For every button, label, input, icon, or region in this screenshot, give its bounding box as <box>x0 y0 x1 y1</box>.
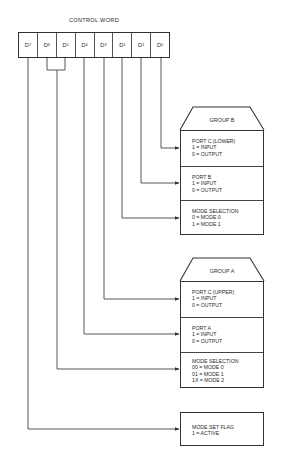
wire-d4 <box>84 58 179 334</box>
group-b-box: PORT C (LOWER) 1 = INPUT 0 = OUTPUT PORT… <box>180 130 264 235</box>
port-a-section: PORT A 1 = INPUT 0 = OUTPUT <box>181 318 263 353</box>
group-b-label: GROUP B <box>180 117 264 123</box>
wire-d0 <box>161 58 179 148</box>
section-line: 0 = OUTPUT <box>192 151 263 157</box>
group-a-label: GROUP A <box>180 268 264 274</box>
wire-d3 <box>104 58 179 299</box>
section-line: 0 = OUTPUT <box>192 338 263 344</box>
group-a-box: PORT C (UPPER) 1 = INPUT 0 = OUTPUT PORT… <box>180 281 264 388</box>
mode-set-flag-box: MODE SET FLAG 1 = ACTIVE <box>180 412 264 446</box>
wire-d1 <box>141 58 179 183</box>
section-line: 0 = OUTPUT <box>192 187 263 193</box>
port-c-lower-section: PORT C (LOWER) 1 = INPUT 0 = OUTPUT <box>181 131 263 167</box>
section-line: 1 = MODE 1 <box>192 221 263 227</box>
group-a-mode-section: MODE SELECTION 00 = MODE 0 01 = MODE 1 1… <box>181 353 263 387</box>
wire-d2 <box>122 58 179 218</box>
section-line: 1 = ACTIVE <box>192 430 263 436</box>
mode-set-flag-section: MODE SET FLAG 1 = ACTIVE <box>181 413 263 445</box>
section-line: 0 = OUTPUT <box>192 302 263 308</box>
wire-d6-d5-bracket <box>47 58 65 70</box>
port-b-section: PORT B 1 = INPUT 0 = OUTPUT <box>181 167 263 201</box>
group-b-mode-section: MODE SELECTION 0 = MODE 0 1 = MODE 1 <box>181 201 263 234</box>
wire-d7 <box>28 58 179 429</box>
port-c-upper-section: PORT C (UPPER) 1 = INPUT 0 = OUTPUT <box>181 282 263 318</box>
section-line: 1X = MODE 2 <box>192 377 263 383</box>
